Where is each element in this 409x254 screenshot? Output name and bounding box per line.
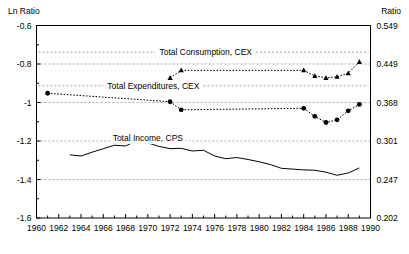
x-tick-label: 1982	[272, 223, 291, 233]
x-tick-label: 1980	[250, 223, 269, 233]
x-tick-label: 1966	[94, 223, 113, 233]
data-point-marker	[168, 99, 173, 104]
x-tick-label: 1964	[72, 223, 91, 233]
y-tick-label: -0.8	[17, 59, 32, 69]
x-tick-label: 1974	[183, 223, 202, 233]
y2-tick-label: 0.301	[377, 136, 399, 146]
y2-tick-label: 0.202	[377, 213, 399, 223]
y-tick-label: -0.6	[17, 21, 32, 31]
x-tick-label: 1962	[49, 223, 68, 233]
line-chart: -0.6-0.8-1-1.2-1.4-1.6 0.5490.4490.3680.…	[0, 0, 409, 254]
x-tick-label: 1984	[294, 223, 313, 233]
y-tick-label: -1.6	[17, 213, 32, 223]
y2-tick-label: 0.368	[377, 98, 399, 108]
series-label-1: Total Consumption, CEX	[159, 47, 252, 57]
x-tick-label: 1988	[339, 223, 358, 233]
data-point-marker	[357, 102, 362, 107]
y-tick-label: -1.2	[17, 136, 32, 146]
x-tick-label: 1970	[138, 223, 157, 233]
y2-axis-title: Ratio	[381, 6, 401, 16]
data-point-marker	[179, 107, 184, 112]
y2-tick-label: 0.449	[377, 59, 399, 69]
x-tick-label: 1978	[227, 223, 246, 233]
x-tick-label: 1990	[361, 223, 380, 233]
y2-tick-label: 0.549	[377, 21, 399, 31]
y-tick-label: -1	[24, 98, 32, 108]
x-tick-label: 1976	[205, 223, 224, 233]
series-label-2: Total Expenditures, CEX	[107, 81, 199, 91]
y2-tick-label: 0.247	[377, 175, 399, 185]
x-tick-label: 1972	[161, 223, 180, 233]
data-point-marker	[45, 91, 50, 96]
x-tick-label: 1968	[116, 223, 135, 233]
data-point-marker	[346, 108, 351, 113]
y-axis-title: Ln Ratio	[8, 6, 40, 16]
data-point-marker	[324, 120, 329, 125]
x-tick-label: 1986	[317, 223, 336, 233]
x-tick-label: 1960	[27, 223, 46, 233]
chart-background	[0, 0, 409, 254]
data-point-marker	[335, 117, 340, 122]
series-label-3: Total Income, CPS	[113, 133, 184, 143]
y-tick-label: -1.4	[17, 175, 32, 185]
data-point-marker	[301, 106, 306, 111]
chart-figure: -0.6-0.8-1-1.2-1.4-1.6 0.5490.4490.3680.…	[0, 0, 409, 254]
data-point-marker	[312, 114, 317, 119]
